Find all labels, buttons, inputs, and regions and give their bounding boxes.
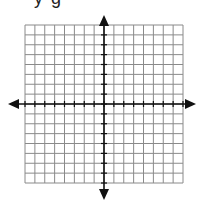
- left-arrow-icon: [8, 99, 19, 109]
- coordinate-plane: [0, 0, 200, 206]
- down-arrow-icon: [99, 189, 109, 200]
- up-arrow-icon: [99, 15, 109, 26]
- axes: [8, 15, 196, 200]
- right-arrow-icon: [185, 99, 196, 109]
